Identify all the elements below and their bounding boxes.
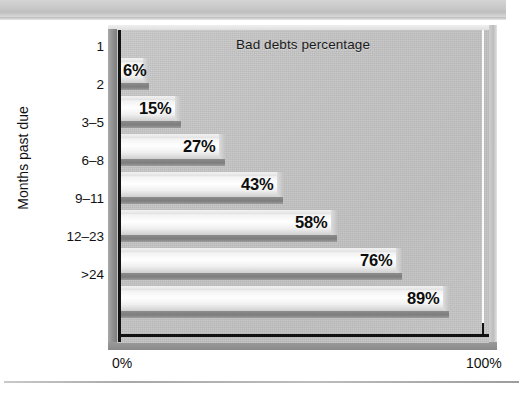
bar-end-bevel: [175, 96, 181, 121]
x-axis-line: [118, 334, 489, 337]
bar-row[interactable]: 89%: [121, 282, 443, 320]
bar-row[interactable]: 43%: [121, 168, 277, 206]
x-tick-label-100: 100%: [466, 355, 502, 371]
bar-shadow: [121, 197, 283, 204]
bar-top-bevel: [121, 248, 396, 252]
frame-bevel-bottom: [108, 342, 497, 350]
bar[interactable]: [121, 286, 443, 311]
bar-row[interactable]: 27%: [121, 130, 219, 168]
bar-value-label: 15%: [139, 99, 171, 118]
bar-end-bevel: [331, 210, 337, 235]
bar-shadow: [121, 159, 225, 166]
y-tick-label-1: 1: [30, 39, 104, 54]
bar-row[interactable]: 58%: [121, 206, 331, 244]
x-axis-tick-100: [482, 323, 484, 335]
y-tick-label-6: 12–23: [30, 229, 104, 244]
bar-end-bevel: [443, 286, 449, 311]
frame-bevel-left: [108, 29, 117, 350]
bar-shadow: [121, 83, 149, 90]
y-tick-label-3: 3–5: [30, 115, 104, 130]
y-tick-label-4: 6–8: [30, 153, 104, 168]
bar-row[interactable]: 6%: [121, 54, 143, 92]
page-header-band: [0, 0, 506, 17]
bar[interactable]: [121, 248, 396, 273]
gridline-100-percent: [482, 30, 484, 336]
frame-bevel-right: [489, 25, 497, 350]
bar-value-label: 43%: [241, 175, 273, 194]
chart-frame: Bad debts percentage 6%15%27%43%58%76%89…: [108, 25, 497, 350]
bar-value-label: 89%: [407, 289, 439, 308]
bar-row[interactable]: 76%: [121, 244, 396, 282]
bar-value-label: 27%: [183, 137, 215, 156]
chart-title: Bad debts percentage: [117, 37, 489, 52]
page-header-band-shadow: [0, 17, 506, 20]
page-footer-rule: [4, 381, 519, 383]
bar-top-bevel: [121, 286, 443, 290]
plot-area: Bad debts percentage 6%15%27%43%58%76%89…: [117, 30, 489, 343]
x-tick-label-0: 0%: [112, 355, 132, 371]
bar-value-label: 6%: [123, 61, 146, 80]
bar-shadow: [121, 273, 402, 280]
bar-value-label: 58%: [295, 213, 327, 232]
y-axis-tick-labels: 1 2 3–5 6–8 9–11 12–23 >24: [22, 25, 104, 350]
y-axis-line: [118, 30, 121, 342]
y-tick-label-5: 9–11: [30, 191, 104, 206]
bar-shadow: [121, 311, 449, 318]
y-tick-label-2: 2: [30, 77, 104, 92]
y-tick-label-7: >24: [30, 267, 104, 282]
bar-shadow: [121, 235, 337, 242]
bar-row[interactable]: 15%: [121, 92, 175, 130]
bar-shadow: [121, 121, 181, 128]
bar-end-bevel: [277, 172, 283, 197]
bar-end-bevel: [396, 248, 402, 273]
bar-end-bevel: [219, 134, 225, 159]
bar-value-label: 76%: [360, 251, 392, 270]
